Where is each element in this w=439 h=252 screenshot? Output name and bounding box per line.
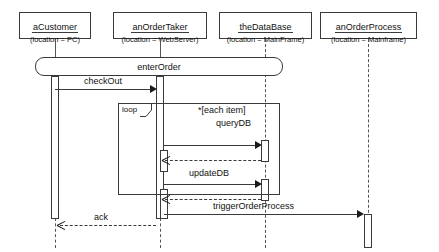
activation-anorderprocess: [364, 214, 372, 248]
lifeline-head-anordertaker[interactable]: anOrderTaker (location = WebServer): [113, 12, 207, 39]
message-enterorder-box[interactable]: enterOrder: [35, 57, 283, 76]
lifeline-name-acustomer: aCustomer: [32, 22, 78, 33]
lifeline-name-anorderprocess: anOrderProcess: [335, 22, 403, 33]
fragment-operator-label: loop: [122, 105, 137, 114]
message-line-updatedb: [164, 184, 257, 185]
lifeline-head-thedatabase[interactable]: theDataBase (location = MainFrame): [219, 12, 312, 39]
arrow-head-querydb: [255, 141, 262, 149]
message-label-updatedb: updateDB: [189, 168, 229, 179]
lifeline-stub-anordertaker: [160, 39, 161, 57]
fragment-tag-notch-icon: [140, 103, 152, 117]
message-line-querydb: [164, 145, 257, 146]
arrow-head-checkout: [150, 85, 157, 93]
fragment-guard-label: *[each item]: [198, 105, 246, 116]
message-label-checkout: checkOut: [84, 76, 122, 87]
arrow-head-return-querydb: [162, 156, 171, 165]
lifeline-name-anordertaker: anOrderTaker: [131, 22, 188, 33]
arrow-head-triggerorderprocess: [357, 210, 364, 218]
return-line-ack: [60, 225, 156, 226]
sequence-diagram-canvas: aCustomer (location = PC) anOrderTaker (…: [0, 0, 439, 252]
message-label-enterorder: enterOrder: [36, 62, 282, 72]
message-label-querydb: queryDB: [216, 118, 251, 129]
message-label-ack: ack: [94, 212, 108, 223]
return-line-querydb: [165, 160, 261, 161]
lifeline-head-acustomer[interactable]: aCustomer (location = PC): [19, 12, 91, 39]
lifeline-head-anorderprocess[interactable]: anOrderProcess (location = Mainframe): [320, 12, 417, 39]
message-line-triggerorderprocess: [164, 214, 362, 215]
message-label-triggerorderprocess: triggerOrderProcess: [213, 201, 294, 212]
lifeline-name-thedatabase: theDataBase: [238, 22, 292, 33]
arrow-head-ack: [57, 221, 66, 230]
activation-acustomer: [51, 76, 59, 219]
lifeline-tail-acustomer: [55, 218, 56, 248]
arrow-head-return-updatedb: [162, 195, 171, 204]
return-line-updatedb: [165, 199, 261, 200]
lifeline-tail-anordertaker: [160, 218, 161, 248]
message-line-checkout: [55, 89, 152, 90]
arrow-head-updatedb: [255, 180, 262, 188]
lifeline-stub-acustomer: [55, 39, 56, 57]
